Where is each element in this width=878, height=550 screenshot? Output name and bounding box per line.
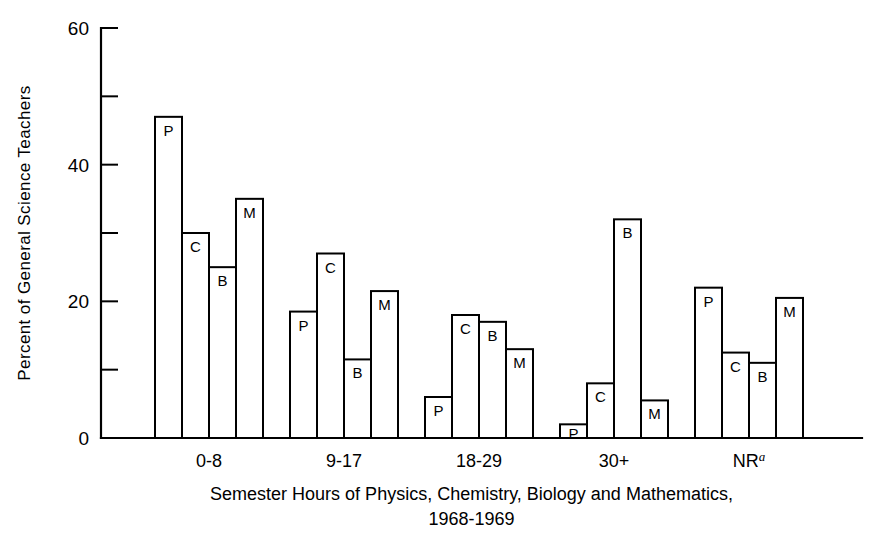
bar-label-B: B xyxy=(217,272,227,289)
bar-label-B: B xyxy=(487,327,497,344)
y-axis-title: Percent of General Science Teachers xyxy=(15,85,34,380)
caption-line-1: Semester Hours of Physics, Chemistry, Bi… xyxy=(210,484,733,504)
bar-30-B xyxy=(614,219,641,438)
bar-917-M xyxy=(371,291,398,438)
y-axis-label-text: Percent of General Science Teachers xyxy=(15,85,34,380)
bar-label-C: C xyxy=(460,320,471,337)
chart-caption: Semester Hours of Physics, Chemistry, Bi… xyxy=(210,484,733,529)
bar-label-P: P xyxy=(568,425,578,442)
bar-label-B: B xyxy=(622,224,632,241)
category-label: NRa xyxy=(733,449,766,471)
bar-label-C: C xyxy=(190,238,201,255)
category-label: 18-29 xyxy=(456,451,502,471)
bar-label-P: P xyxy=(433,402,443,419)
category-superscript: a xyxy=(759,449,766,464)
y-tick-label: 20 xyxy=(68,291,89,312)
bar-label-P: P xyxy=(703,293,713,310)
category-label: 30+ xyxy=(599,451,630,471)
category-labels: 0-89-1718-2930+NRa xyxy=(196,449,766,471)
bar-label-C: C xyxy=(325,259,336,276)
bar-label-B: B xyxy=(352,364,362,381)
bar-label-C: C xyxy=(730,358,741,375)
bar-08-P xyxy=(155,117,182,438)
bar-chart-canvas: 0204060 PCBMPCBMPCBMPCBMPCBM 0-89-1718-2… xyxy=(0,0,878,550)
bar-08-B xyxy=(209,267,236,438)
bar-label-B: B xyxy=(757,368,767,385)
bar-label-M: M xyxy=(243,204,256,221)
bar-08-C xyxy=(182,233,209,438)
y-axis: 0204060 xyxy=(68,18,118,449)
bar-917-C xyxy=(317,254,344,439)
bar-label-C: C xyxy=(595,388,606,405)
chart-figure: 0204060 PCBMPCBMPCBMPCBMPCBM 0-89-1718-2… xyxy=(0,0,878,550)
bar-label-M: M xyxy=(378,296,391,313)
category-label: 9-17 xyxy=(326,451,362,471)
y-tick-label: 0 xyxy=(78,428,89,449)
caption-line-2: 1968-1969 xyxy=(428,509,514,529)
bar-label-M: M xyxy=(513,354,526,371)
bar-08-M xyxy=(236,199,263,438)
bars-container: PCBMPCBMPCBMPCBMPCBM xyxy=(155,117,803,443)
y-tick-label: 40 xyxy=(68,155,89,176)
bar-NR-P xyxy=(695,288,722,438)
bar-label-M: M xyxy=(783,303,796,320)
y-tick-label: 60 xyxy=(68,18,89,39)
bar-label-P: P xyxy=(163,122,173,139)
bar-label-M: M xyxy=(648,405,661,422)
category-label: 0-8 xyxy=(196,451,222,471)
bar-label-P: P xyxy=(298,317,308,334)
